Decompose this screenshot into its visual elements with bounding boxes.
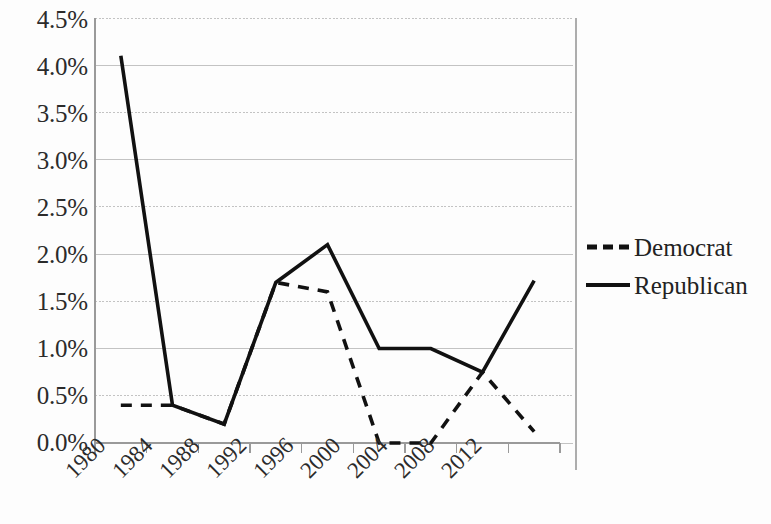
- x-tick-label: 1996: [249, 433, 298, 482]
- legend-item-republican: Republican: [586, 266, 771, 304]
- legend-label: Democrat: [634, 234, 733, 261]
- chart-legend: Democrat Republican: [586, 228, 771, 304]
- dashed-line-swatch: [586, 237, 630, 257]
- x-tick-label: 2008: [390, 433, 439, 482]
- x-tick-label: 2000: [296, 433, 345, 482]
- line-chart: 4.5% 4.0% 3.5% 3.0% 2.5% 2.0% 1.5% 1.0% …: [0, 0, 771, 524]
- legend-item-democrat: Democrat: [586, 228, 771, 266]
- solid-line-swatch: [586, 275, 630, 295]
- legend-label: Republican: [634, 272, 748, 299]
- x-tick-label: 2004: [343, 433, 392, 482]
- x-tick-label: 1980: [61, 433, 110, 482]
- x-tick-label: 1984: [108, 433, 157, 482]
- x-tick-label: 1992: [202, 433, 251, 482]
- x-tick-label: 1988: [155, 433, 204, 482]
- x-tick-label: 2012: [437, 433, 486, 482]
